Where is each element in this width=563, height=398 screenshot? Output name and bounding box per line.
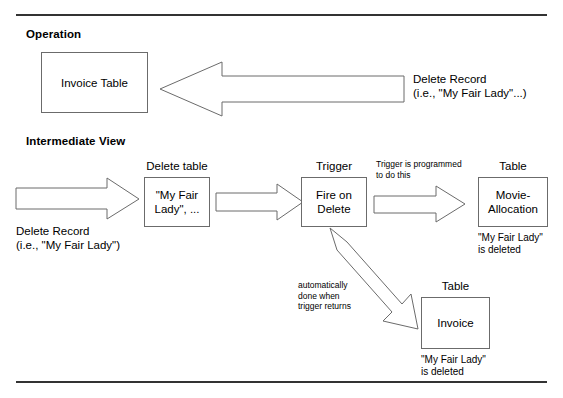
invoice-bottom-box: Invoice [421, 297, 490, 349]
trigger-box: Fire on Delete [301, 177, 367, 227]
invoice-table-box-label: Invoice Table [61, 76, 128, 90]
delete-table-title: Delete table [144, 160, 210, 173]
delete-table-box: "My Fair Lady", ... [144, 177, 210, 227]
bottom-divider [16, 381, 547, 383]
invoice-table-box: Invoice Table [41, 52, 148, 113]
trigger-box-label: Fire on Delete [316, 188, 352, 216]
movie-allocation-box: Movie- Allocation [478, 177, 548, 227]
delete-table-to-trigger-arrow [215, 183, 305, 221]
invoice-bottom-caption: "My Fair Lady" is deleted [421, 354, 486, 377]
trigger-to-invoice-diagonal-arrow [326, 226, 422, 332]
invoice-bottom-title: Table [421, 280, 490, 293]
automatically-done-note: automatically done when trigger returns [298, 280, 351, 312]
trigger-title: Trigger [301, 160, 367, 173]
movie-allocation-caption: "My Fair Lady" is deleted [478, 232, 543, 255]
trigger-programmed-note: Trigger is programmed to do this [376, 159, 462, 180]
delete-record-arrow-left [158, 58, 406, 120]
section-title-operation: Operation [26, 28, 81, 40]
operation-arrow-caption: Delete Record (i.e., "My Fair Lady"...) [413, 72, 527, 100]
diagram-canvas: Operation Invoice Table Delete Record (i… [0, 0, 563, 398]
section-title-intermediate-view: Intermediate View [26, 135, 125, 147]
movie-allocation-box-label: Movie- Allocation [488, 188, 538, 216]
invoice-bottom-box-label: Invoice [437, 316, 473, 330]
delete-record-input-arrow [15, 177, 141, 221]
top-divider [16, 14, 547, 16]
movie-allocation-title: Table [478, 160, 548, 173]
trigger-to-movie-allocation-arrow [373, 185, 467, 223]
delete-table-box-label: "My Fair Lady", ... [155, 188, 200, 216]
intermediate-input-arrow-caption: Delete Record (i.e., "My Fair Lady") [16, 224, 120, 252]
